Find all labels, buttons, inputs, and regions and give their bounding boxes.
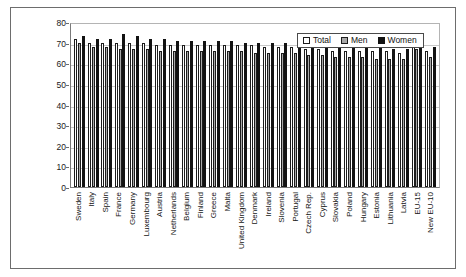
- bar-total: [385, 51, 388, 187]
- bar-total: [223, 45, 226, 187]
- bar-group: [343, 24, 356, 187]
- y-axis-tick-label: 40: [42, 102, 66, 111]
- bar-group: [140, 24, 153, 187]
- plot-area: Total Men Women: [70, 23, 440, 188]
- x-axis-tick: Belgium: [181, 190, 195, 266]
- bar-group: [383, 24, 396, 187]
- x-axis-tick: United Kingdom: [235, 190, 249, 266]
- bar-total: [358, 51, 361, 187]
- bar-women: [136, 36, 139, 187]
- bar-total: [277, 47, 280, 187]
- bar-total: [344, 51, 347, 187]
- bar-group: [248, 24, 261, 187]
- x-axis-tick-label: Portugal: [292, 192, 300, 222]
- x-axis-tick-label: Sweden: [75, 192, 83, 221]
- y-axis-tick-label: 60: [42, 60, 66, 69]
- y-axis-tick-mark: [66, 147, 69, 148]
- bar-men: [227, 51, 230, 187]
- bar-women: [298, 43, 301, 187]
- bar-women: [271, 43, 274, 187]
- x-axis-tick-label: Malta: [224, 192, 232, 212]
- bar-total: [88, 43, 91, 187]
- bar-men: [415, 49, 418, 187]
- bar-men: [132, 49, 135, 187]
- x-axis-tick: Latvia: [398, 190, 412, 266]
- bar-women: [379, 47, 382, 187]
- bar-women: [433, 47, 436, 187]
- x-axis-tick: Greece: [208, 190, 222, 266]
- x-axis-tick: Estonia: [370, 190, 384, 266]
- bar-men: [105, 47, 108, 187]
- bar-women: [122, 34, 125, 187]
- bar-women: [325, 45, 328, 187]
- bar-group: [208, 24, 221, 187]
- bar-group: [397, 24, 410, 187]
- x-axis-tick-label: Cyprus: [319, 192, 327, 217]
- bar-group: [127, 24, 140, 187]
- bar-total: [169, 45, 172, 187]
- y-axis-tick-label: 0: [42, 184, 66, 193]
- bar-group: [86, 24, 99, 187]
- x-axis-tick: Cyprus: [316, 190, 330, 266]
- y-axis-tick-mark: [66, 64, 69, 65]
- x-axis-tick-label: Denmark: [251, 192, 259, 224]
- bar-women: [96, 39, 99, 188]
- legend-label-women: Women: [388, 36, 417, 45]
- bar-total: [412, 45, 415, 187]
- bar-women: [82, 36, 85, 187]
- bar-total: [263, 47, 266, 187]
- x-axis-tick: Finland: [194, 190, 208, 266]
- bar-total: [182, 45, 185, 187]
- x-axis-tick: Sweden: [72, 190, 86, 266]
- x-axis-tick: Lithuania: [384, 190, 398, 266]
- bar-men: [307, 55, 310, 187]
- bar-group: [181, 24, 194, 187]
- legend-item-total: Total: [303, 36, 331, 45]
- bar-total: [290, 47, 293, 187]
- bar-men: [213, 51, 216, 187]
- x-axis-tick: Czech Rep.: [303, 190, 317, 266]
- bar-group: [275, 24, 288, 187]
- bar-men: [119, 49, 122, 187]
- bar-total: [250, 45, 253, 187]
- y-axis-tick-mark: [66, 106, 69, 107]
- bar-group: [316, 24, 329, 187]
- legend-swatch-men-icon: [341, 37, 348, 44]
- bar-group: [302, 24, 315, 187]
- bar-men: [388, 59, 391, 187]
- x-axis-tick: Netherlands: [167, 190, 181, 266]
- bar-group: [410, 24, 423, 187]
- y-axis-tick-mark: [66, 44, 69, 45]
- x-axis-tick: France: [113, 190, 127, 266]
- bar-men: [348, 57, 351, 187]
- bar-men: [321, 55, 324, 187]
- bar-group: [356, 24, 369, 187]
- grouped-bar-chart: 01020304050607080 Total Men Women Swed: [44, 18, 448, 266]
- chart-screenshot: 01020304050607080 Total Men Women Swed: [0, 0, 466, 277]
- bar-men: [173, 51, 176, 187]
- bar-group: [221, 24, 234, 187]
- y-axis-tick-label: 70: [42, 40, 66, 49]
- x-axis-tick-label: Belgium: [183, 192, 191, 221]
- bar-women: [203, 41, 206, 187]
- x-axis-tick: Poland: [343, 190, 357, 266]
- x-axis-tick-label: Austria: [156, 192, 164, 217]
- bar-men: [200, 51, 203, 187]
- bar-total: [331, 51, 334, 187]
- bar-total: [371, 51, 374, 187]
- bar-total: [155, 45, 158, 187]
- bar-men: [429, 57, 432, 187]
- bar-group: [262, 24, 275, 187]
- bar-men: [240, 51, 243, 187]
- bar-women: [163, 39, 166, 188]
- x-axis-tick: Hungary: [357, 190, 371, 266]
- x-axis-tick: Slovenia: [275, 190, 289, 266]
- bar-group: [235, 24, 248, 187]
- bar-total: [128, 43, 131, 187]
- x-axis-tick-label: Spain: [102, 192, 110, 212]
- x-axis-tick-label: Hungary: [360, 192, 368, 222]
- bar-women: [149, 39, 152, 188]
- bar-women: [257, 43, 260, 187]
- x-axis-tick-label: Slovenia: [278, 192, 286, 223]
- bar-women: [244, 43, 247, 187]
